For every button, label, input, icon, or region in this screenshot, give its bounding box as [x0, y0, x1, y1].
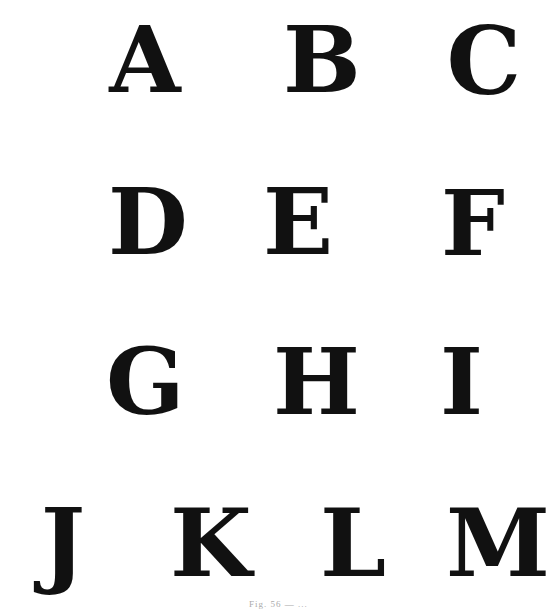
letter-e: E: [263, 176, 329, 268]
letter-j: J: [34, 496, 92, 590]
letter-a: A: [102, 14, 188, 106]
letter-i: I: [440, 336, 480, 428]
letter-l: L: [318, 496, 388, 590]
letter-f: F: [441, 178, 497, 268]
letter-b: B: [283, 14, 353, 106]
letter-c: C: [445, 14, 523, 108]
letter-k: K: [170, 496, 250, 590]
letter-h: H: [273, 336, 351, 428]
figure-caption: Fig. 56 — ...: [0, 599, 557, 609]
letter-d: D: [108, 176, 186, 268]
letter-g: G: [106, 336, 182, 428]
letter-m: M: [446, 496, 532, 590]
